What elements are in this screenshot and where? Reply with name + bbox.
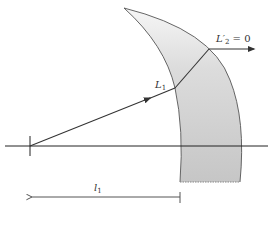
label-L1: L1 [155, 80, 166, 92]
distance-arrow-l1 [32, 192, 180, 203]
label-l1: l1 [94, 183, 102, 195]
incident-ray-L1 [30, 88, 175, 146]
label-L2: L′2 = 0 [216, 34, 251, 46]
